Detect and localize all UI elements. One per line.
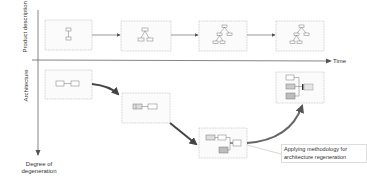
time-axis-label: Time — [333, 58, 346, 65]
architecture-box-3 — [199, 128, 247, 158]
regeneration-arrow — [247, 106, 302, 143]
architecture-box-2 — [122, 93, 170, 123]
regeneration-callout: Applying methodology for architecture re… — [281, 144, 367, 163]
time-axis — [32, 59, 332, 64]
callout-leader — [247, 145, 281, 154]
product-box-4 — [276, 21, 324, 51]
product-box-3 — [199, 21, 247, 51]
architecture-label: Architecture — [23, 66, 30, 106]
degeneration-arrow-1 — [92, 84, 118, 94]
architecture-box-1 — [45, 70, 92, 99]
product-box-2 — [121, 21, 171, 51]
degeneration-axis-label: Degree of degeneration — [18, 161, 60, 175]
product-description-label: Product description — [22, 3, 29, 53]
vertical-axis — [36, 10, 41, 156]
architecture-box-4 — [276, 72, 324, 103]
degeneration-arrow-2 — [170, 123, 196, 144]
product-box-1 — [45, 20, 92, 50]
